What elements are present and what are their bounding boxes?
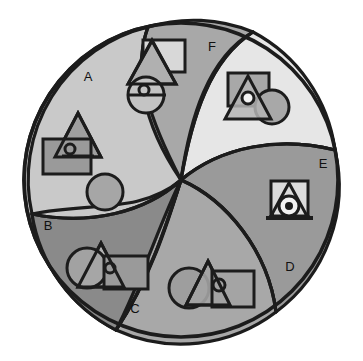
figure-canvas: A B C D E F bbox=[0, 0, 363, 361]
region-label-B: B bbox=[44, 218, 53, 233]
region-label-D: D bbox=[285, 259, 294, 274]
cluster-right[interactable] bbox=[266, 181, 313, 218]
small-circle-eye[interactable] bbox=[242, 92, 254, 104]
region-label-F: F bbox=[208, 39, 216, 54]
cluster-plain-circle[interactable] bbox=[87, 174, 123, 210]
rectangle-shape[interactable] bbox=[212, 271, 254, 307]
region-diagram: A B C D E F bbox=[0, 0, 363, 361]
region-label-C: C bbox=[130, 301, 139, 316]
circle-shape[interactable] bbox=[87, 174, 123, 210]
region-label-E: E bbox=[319, 156, 328, 171]
region-label-A: A bbox=[84, 69, 93, 84]
circle-inner-dot bbox=[285, 202, 293, 210]
